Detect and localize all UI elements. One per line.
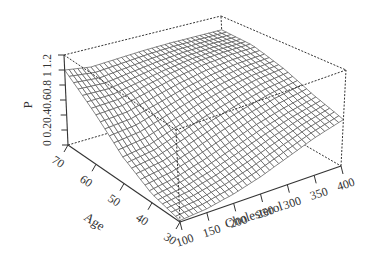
- y-axis-label: Age: [81, 209, 108, 234]
- tick-label: 100: [174, 231, 195, 250]
- tick-label: 150: [201, 221, 222, 240]
- tick-label: 40: [133, 210, 151, 228]
- surface-plot: P 0 0.20.40.60.8 1 1.2 Age Cholesterol 3…: [0, 0, 376, 268]
- tick-label: 70: [49, 153, 67, 171]
- surface-mesh: [65, 30, 344, 221]
- tick-label: 300: [281, 193, 302, 212]
- z-axis-label: P: [20, 101, 35, 108]
- tick-label: 50: [105, 191, 123, 209]
- z-axis-ticks: 0 0.20.40.60.8 1 1.2: [41, 54, 53, 146]
- tick-label: 350: [308, 184, 329, 203]
- tick-label: 400: [335, 175, 356, 194]
- tick-label: 60: [77, 172, 95, 190]
